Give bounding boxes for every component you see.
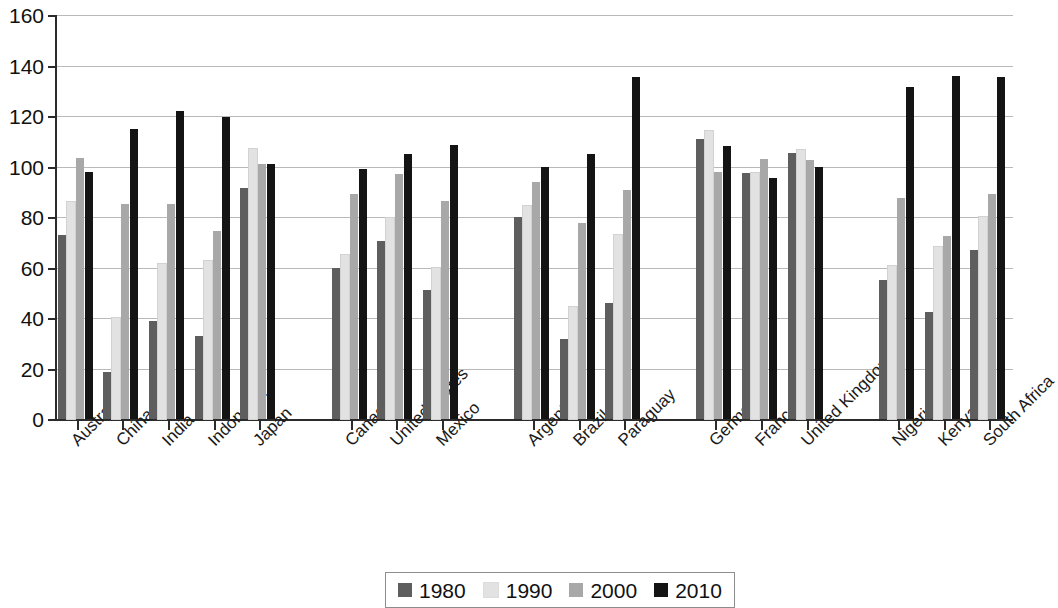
bar bbox=[332, 268, 340, 420]
bar bbox=[705, 131, 713, 419]
bar bbox=[130, 129, 138, 419]
bar bbox=[614, 235, 622, 419]
bar bbox=[623, 190, 631, 419]
bar bbox=[350, 194, 358, 419]
bar bbox=[560, 339, 568, 419]
bar bbox=[176, 111, 184, 419]
bar bbox=[359, 169, 367, 419]
bar bbox=[934, 247, 942, 419]
y-axis-tick bbox=[48, 167, 55, 169]
legend-label: 1980 bbox=[419, 580, 466, 601]
bar bbox=[267, 164, 275, 419]
bar bbox=[760, 159, 768, 419]
bar bbox=[450, 145, 458, 419]
legend-label: 1990 bbox=[506, 580, 553, 601]
bar bbox=[879, 280, 887, 419]
bar bbox=[103, 372, 111, 419]
legend-entry: 2000 bbox=[569, 580, 637, 601]
bar bbox=[58, 235, 66, 419]
legend-entry: 1980 bbox=[398, 580, 466, 601]
bar bbox=[423, 290, 431, 419]
bar bbox=[970, 250, 978, 419]
y-axis-labels: 020406080100120140160 bbox=[0, 0, 44, 607]
y-axis-tick bbox=[48, 15, 55, 17]
bar bbox=[532, 182, 540, 419]
legend-swatch-icon bbox=[569, 583, 583, 597]
bar bbox=[67, 202, 75, 419]
bar bbox=[213, 231, 221, 419]
y-axis-tick-label: 40 bbox=[4, 308, 44, 329]
bar bbox=[797, 150, 805, 419]
gridline bbox=[55, 15, 1013, 16]
legend-label: 2000 bbox=[590, 580, 637, 601]
y-axis-tick bbox=[48, 419, 55, 421]
y-axis-tick-label: 0 bbox=[4, 409, 44, 430]
bar bbox=[523, 206, 531, 419]
bar bbox=[988, 194, 996, 419]
bar bbox=[997, 77, 1005, 419]
bar bbox=[897, 198, 905, 419]
bar bbox=[751, 173, 759, 419]
bar bbox=[222, 117, 230, 419]
bar bbox=[979, 217, 987, 419]
y-axis-tick-label: 160 bbox=[4, 5, 44, 26]
bar bbox=[925, 312, 933, 419]
legend-entry: 2010 bbox=[654, 580, 722, 601]
gridline bbox=[55, 167, 1013, 168]
bar bbox=[85, 172, 93, 419]
bar bbox=[240, 188, 248, 419]
bar bbox=[569, 307, 577, 419]
bar bbox=[258, 164, 266, 419]
legend-swatch-icon bbox=[398, 583, 412, 597]
bar bbox=[723, 146, 731, 419]
legend-label: 2010 bbox=[675, 580, 722, 601]
y-axis-tick-label: 140 bbox=[4, 55, 44, 76]
bar bbox=[404, 154, 412, 419]
bar bbox=[514, 217, 522, 419]
bar bbox=[952, 76, 960, 419]
bar bbox=[386, 218, 394, 419]
bar bbox=[341, 255, 349, 419]
bar bbox=[377, 241, 385, 419]
legend-swatch-icon bbox=[654, 583, 668, 597]
legend-entry: 1990 bbox=[483, 580, 553, 601]
bar bbox=[769, 178, 777, 419]
bar bbox=[249, 149, 257, 419]
bar bbox=[806, 160, 814, 419]
bar bbox=[788, 153, 796, 419]
y-axis-tick-label: 120 bbox=[4, 106, 44, 127]
bar bbox=[587, 154, 595, 419]
bar bbox=[632, 77, 640, 419]
bar bbox=[714, 172, 722, 419]
bar bbox=[541, 167, 549, 420]
y-axis-tick bbox=[48, 268, 55, 270]
y-axis-tick-label: 80 bbox=[4, 207, 44, 228]
bar bbox=[815, 167, 823, 420]
y-axis-tick bbox=[48, 66, 55, 68]
bar bbox=[578, 223, 586, 419]
bar bbox=[149, 321, 157, 419]
bar bbox=[888, 266, 896, 419]
y-axis-tick bbox=[48, 217, 55, 219]
bar bbox=[158, 264, 166, 419]
bar bbox=[943, 236, 951, 419]
gridline bbox=[55, 66, 1013, 67]
y-axis-tick bbox=[48, 318, 55, 320]
y-axis-tick-label: 20 bbox=[4, 358, 44, 379]
y-axis-tick-label: 60 bbox=[4, 257, 44, 278]
bar bbox=[696, 139, 704, 419]
bar bbox=[742, 173, 750, 419]
y-axis-line bbox=[55, 15, 57, 421]
y-axis-tick bbox=[48, 369, 55, 371]
bar bbox=[395, 174, 403, 419]
legend-swatch-icon bbox=[483, 582, 499, 598]
chart-legend: 1980199020002010 bbox=[385, 572, 735, 608]
y-axis-tick-label: 100 bbox=[4, 156, 44, 177]
bar bbox=[167, 204, 175, 419]
bar bbox=[112, 318, 120, 419]
bar bbox=[195, 336, 203, 419]
bar bbox=[204, 261, 212, 419]
bar bbox=[906, 87, 914, 419]
y-axis-tick bbox=[48, 116, 55, 118]
